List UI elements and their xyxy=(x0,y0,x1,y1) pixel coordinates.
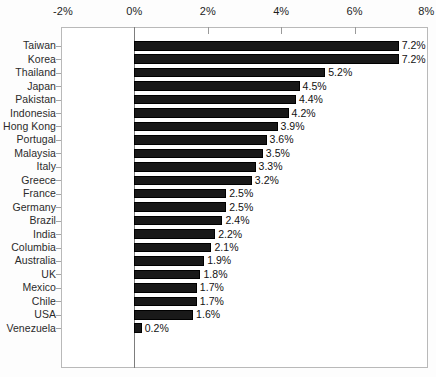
bar xyxy=(134,81,299,91)
bar-value-label: 4.2% xyxy=(292,108,316,119)
bar-value-label: 7.2% xyxy=(402,40,426,51)
bar-value-label: 4.5% xyxy=(303,81,327,92)
bar xyxy=(134,135,266,145)
bar xyxy=(134,297,196,307)
bars-layer: 7.2%7.2%5.2%4.5%4.4%4.2%3.9%3.6%3.5%3.3%… xyxy=(0,0,436,377)
bar-value-label: 3.9% xyxy=(281,121,305,132)
bar-value-label: 3.5% xyxy=(266,148,290,159)
bar-value-label: 2.5% xyxy=(229,202,253,213)
bar xyxy=(134,216,222,226)
bar xyxy=(134,122,277,132)
bar-value-label: 2.5% xyxy=(229,188,253,199)
bar xyxy=(134,243,211,253)
bar-value-label: 5.2% xyxy=(328,67,352,78)
bar xyxy=(134,270,200,280)
bar xyxy=(134,256,204,266)
bar-value-label: 1.6% xyxy=(196,309,220,320)
bar xyxy=(134,189,226,199)
bar-chart: -2%0%2%4%6%8% TaiwanKoreaThailandJapanPa… xyxy=(0,0,436,377)
bar-value-label: 3.2% xyxy=(255,175,279,186)
bar-value-label: 1.9% xyxy=(207,255,231,266)
bar-value-label: 2.1% xyxy=(214,242,238,253)
bar-value-label: 1.7% xyxy=(200,282,224,293)
bar xyxy=(134,310,193,320)
bar-value-label: 0.2% xyxy=(145,323,169,334)
bar xyxy=(134,95,295,105)
bar-value-label: 3.6% xyxy=(270,134,294,145)
bar-value-label: 1.7% xyxy=(200,296,224,307)
bar xyxy=(134,283,196,293)
bar xyxy=(134,41,398,51)
bar xyxy=(134,323,141,333)
bar xyxy=(134,162,255,172)
bar xyxy=(134,229,215,239)
bar xyxy=(134,68,325,78)
bar xyxy=(134,54,398,64)
bar-value-label: 2.4% xyxy=(225,215,249,226)
bar xyxy=(134,176,251,186)
bar xyxy=(134,149,262,159)
bar-value-label: 7.2% xyxy=(402,54,426,65)
bar xyxy=(134,202,226,212)
bar-value-label: 2.2% xyxy=(218,229,242,240)
bar-value-label: 3.3% xyxy=(259,161,283,172)
bar xyxy=(134,108,288,118)
bar-value-label: 1.8% xyxy=(203,269,227,280)
bar-value-label: 4.4% xyxy=(299,94,323,105)
